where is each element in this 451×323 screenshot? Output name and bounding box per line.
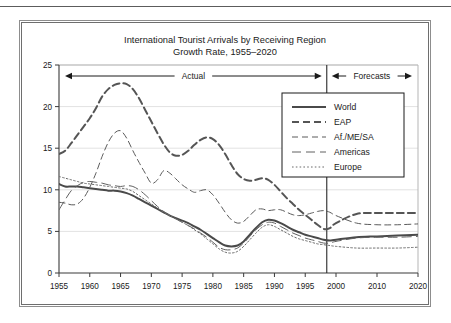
- legend-label-eap: EAP: [334, 117, 351, 127]
- x-tick-label-1995: 1995: [296, 282, 315, 291]
- y-tick-label-0: 0: [47, 269, 52, 278]
- x-axis: 1955196019651970197519801985199019952000…: [50, 273, 428, 291]
- y-tick-label-15: 15: [43, 144, 53, 153]
- x-tick-label-1955: 1955: [50, 282, 69, 291]
- actual-annotation-arrowhead-left: [65, 73, 72, 79]
- x-tick-label-1990: 1990: [265, 282, 284, 291]
- legend-label-af-me-sa: Af./ME/SA: [334, 132, 374, 142]
- chart-title-line2: Growth Rate, 1955–2020: [173, 47, 277, 57]
- legend-label-americas: Americas: [334, 147, 370, 157]
- actual-annotation-label: Actual: [182, 71, 205, 81]
- x-tick-label-1965: 1965: [111, 282, 130, 291]
- y-tick-label-20: 20: [43, 103, 53, 112]
- y-axis: 0510152025: [43, 61, 59, 278]
- x-tick-label-1970: 1970: [142, 282, 161, 291]
- growth-rate-line-chart: International Tourist Arrivals by Receiv…: [20, 21, 430, 306]
- chart-legend: WorldEAPAf./ME/SAAmericasEurope: [282, 93, 404, 177]
- series-line-world: [59, 184, 418, 246]
- series-line-americas: [59, 181, 418, 249]
- actual-annotation-arrowhead-right: [315, 73, 322, 79]
- x-tick-label-2020: 2020: [409, 282, 428, 291]
- period-annotations: ActualForecasts: [65, 71, 412, 81]
- legend-label-europe: Europe: [334, 162, 362, 172]
- series-line-europe: [59, 176, 418, 253]
- y-tick-label-5: 5: [47, 227, 52, 236]
- x-tick-label-2000: 2000: [327, 282, 346, 291]
- top-divider-rule: [0, 6, 451, 7]
- x-tick-label-1960: 1960: [81, 282, 100, 291]
- forecasts-annotation-arrowhead-right: [405, 73, 412, 79]
- chart-title-line1: International Tourist Arrivals by Receiv…: [124, 35, 326, 45]
- chart-title: International Tourist Arrivals by Receiv…: [124, 35, 326, 57]
- figure-frame: International Tourist Arrivals by Receiv…: [19, 20, 431, 307]
- y-tick-label-25: 25: [43, 61, 53, 70]
- legend-label-world: World: [334, 102, 357, 112]
- x-tick-label-1975: 1975: [173, 282, 192, 291]
- forecasts-annotation-arrowhead-left: [332, 73, 339, 79]
- x-tick-label-1980: 1980: [204, 282, 223, 291]
- forecasts-annotation-label: Forecasts: [353, 71, 390, 81]
- y-tick-label-10: 10: [43, 186, 53, 195]
- x-tick-label-1985: 1985: [235, 282, 254, 291]
- x-tick-label-2010: 2010: [368, 282, 387, 291]
